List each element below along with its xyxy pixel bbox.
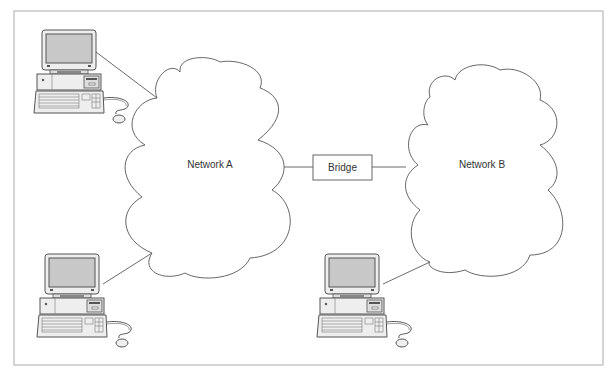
link-pc1-network-a	[96, 52, 157, 98]
bridge-node: Bridge	[313, 155, 372, 180]
link-pc3-network-b	[383, 262, 430, 284]
network-a-cloud: Network A	[125, 58, 290, 278]
bridge-label: Bridge	[328, 162, 357, 173]
network-b-cloud: Network B	[406, 65, 563, 276]
network-diagram: Network A Network B Bridge	[0, 0, 615, 373]
link-pc2-network-a	[103, 253, 152, 284]
computer-icon	[37, 254, 131, 347]
network-b-label: Network B	[459, 159, 505, 170]
computer-icon	[317, 254, 411, 347]
computer-icon	[34, 30, 128, 123]
network-a-label: Network A	[187, 159, 233, 170]
